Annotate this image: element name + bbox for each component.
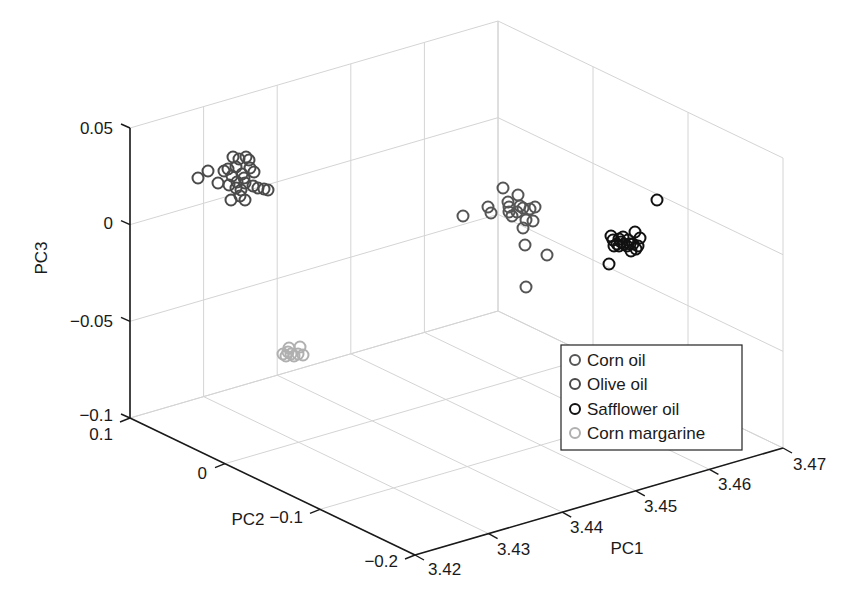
- pc2-tick: [405, 555, 415, 559]
- back-wall-grid-line: [130, 118, 498, 225]
- data-point: [193, 173, 204, 184]
- data-point: [521, 282, 532, 293]
- side-wall-grid-line: [498, 21, 783, 158]
- pc1-tick: [636, 491, 645, 496]
- pc3-tick: [121, 317, 130, 321]
- back-wall-grid-line: [130, 311, 498, 418]
- pc2-tick: [310, 509, 320, 513]
- pc2-axis-label: PC2: [231, 510, 264, 529]
- legend-label: Safflower oil: [587, 400, 679, 419]
- pc2-tick: [120, 418, 130, 422]
- legend-item-corn-margarine: Corn margarine: [570, 424, 705, 443]
- pc3-tick-label: 0.05: [80, 119, 113, 138]
- pc1-tick-labels: 3.42 3.43 3.44 3.45 3.46 3.47: [428, 455, 826, 579]
- pc1-tick-label: 3.45: [644, 497, 677, 516]
- pc2-tick-label: −0.1: [269, 508, 303, 527]
- pc1-tick: [562, 512, 571, 517]
- pc1-tick-label: 3.46: [718, 475, 751, 494]
- pca-3d-scatter-chart: 0.05 0 −0.05 −0.1 0.1 0 −0.1 −0.2 3.42 3…: [0, 0, 857, 602]
- legend-label: Corn margarine: [587, 424, 705, 443]
- pc1-tick-label: 3.44: [570, 518, 603, 537]
- pc3-tick-label: 0: [104, 214, 113, 233]
- axes: [120, 124, 792, 560]
- series-corn-oil: [458, 183, 553, 293]
- back-wall-grid-line: [130, 21, 498, 128]
- floor-grid-line: [225, 357, 593, 464]
- pc2-tick: [215, 464, 225, 468]
- pc3-tick: [121, 414, 130, 418]
- pc1-axis-line: [415, 448, 783, 555]
- pc2-tick-labels: 0.1 0 −0.1 −0.2: [89, 425, 398, 571]
- legend-label: Olive oil: [587, 375, 647, 394]
- pc3-tick-labels: 0.05 0 −0.05 −0.1: [70, 119, 113, 425]
- pc1-tick: [489, 534, 498, 539]
- pc1-tick: [415, 555, 424, 560]
- series-olive-oil: [193, 152, 274, 206]
- data-point: [528, 216, 539, 227]
- pc3-tick: [121, 221, 130, 225]
- pc3-tick-label: −0.05: [70, 312, 113, 331]
- data-points: [193, 152, 663, 362]
- pc1-tick-label: 3.47: [793, 455, 826, 474]
- pc1-tick-label: 3.43: [497, 540, 530, 559]
- legend: Corn oil Olive oil Safflower oil Corn ma…: [561, 345, 742, 450]
- pc1-axis-label: PC1: [610, 539, 643, 558]
- data-point: [652, 195, 663, 206]
- series-corn-margarine: [278, 342, 309, 362]
- pc1-tick-label: 3.42: [428, 560, 461, 579]
- pc2-tick-label: 0.1: [89, 425, 113, 444]
- grid-lines: [130, 21, 783, 555]
- data-point: [213, 178, 224, 189]
- legend-label: Corn oil: [587, 351, 646, 370]
- data-point: [458, 211, 469, 222]
- data-point: [542, 250, 553, 261]
- data-point: [513, 190, 524, 201]
- pc2-tick-label: −0.2: [364, 552, 398, 571]
- back-wall-grid-line: [130, 214, 498, 321]
- data-point: [520, 240, 531, 251]
- data-point: [203, 166, 214, 177]
- legend-item-safflower-oil: Safflower oil: [570, 400, 679, 419]
- pc2-tick-label: 0: [198, 464, 207, 483]
- floor-grid-line: [277, 375, 562, 512]
- series-safflower-oil: [604, 195, 663, 270]
- pc1-tick: [783, 448, 792, 453]
- pc1-tick: [709, 469, 718, 474]
- pc3-tick-label: −0.1: [79, 406, 113, 425]
- data-point: [241, 152, 252, 163]
- pc3-tick: [121, 124, 130, 128]
- data-point: [498, 183, 509, 194]
- pc3-axis-label: PC3: [32, 241, 51, 274]
- pc2-axis-line: [130, 418, 415, 555]
